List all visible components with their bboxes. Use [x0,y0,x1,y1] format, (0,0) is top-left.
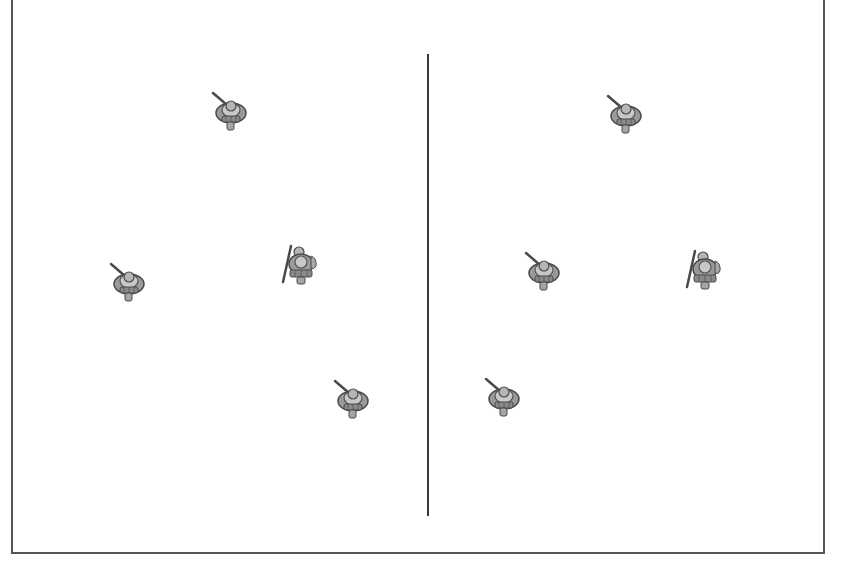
soldier-unit-icon[interactable] [277,242,323,288]
soldier-unit-icon[interactable] [480,375,526,421]
soldier-unit-icon[interactable] [105,260,151,306]
soldier-unit-icon[interactable] [207,89,253,135]
soldier-unit-icon[interactable] [329,377,375,423]
soldier-unit-icon[interactable] [602,92,648,138]
soldier-unit-icon[interactable] [681,247,727,293]
panel-divider [427,54,429,516]
soldier-unit-icon[interactable] [520,249,566,295]
